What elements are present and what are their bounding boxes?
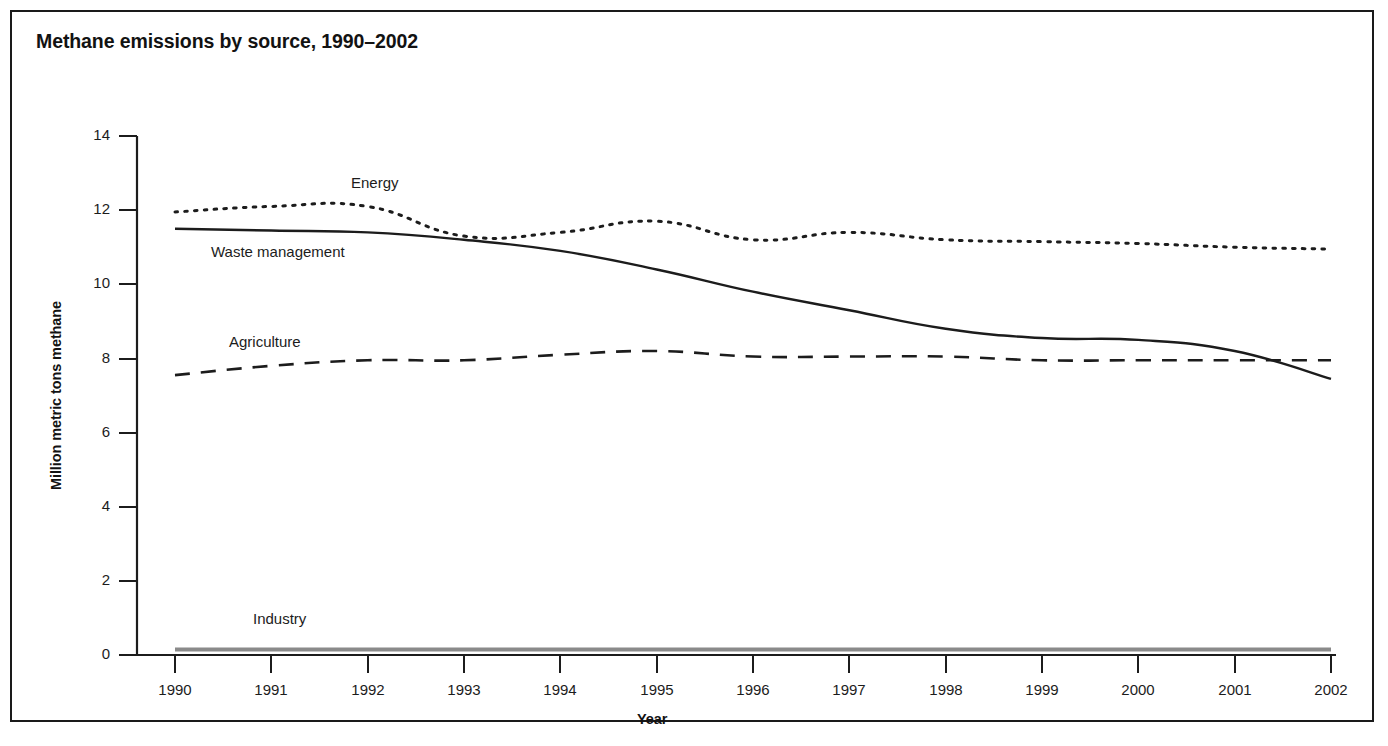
x-tick-label-1999: 1999	[1012, 681, 1072, 698]
x-axis-title: Year	[637, 711, 667, 727]
x-axis-ticks	[175, 655, 1331, 673]
series-label-agriculture: Agriculture	[229, 333, 301, 350]
series-label-energy: Energy	[351, 174, 399, 191]
y-axis-ticks	[119, 136, 137, 655]
bottom-margin-band	[0, 730, 1388, 746]
y-tick-label-4: 4	[74, 497, 110, 514]
y-tick-label-6: 6	[74, 423, 110, 440]
x-tick-label-1995: 1995	[627, 681, 687, 698]
x-tick-label-2000: 2000	[1108, 681, 1168, 698]
series-label-industry: Industry	[253, 610, 306, 627]
data-series-group	[175, 203, 1331, 649]
figure-container: Methane emissions by source, 1990–2002	[0, 0, 1388, 746]
x-tick-label-1994: 1994	[530, 681, 590, 698]
y-tick-label-10: 10	[74, 274, 110, 291]
x-tick-label-1992: 1992	[338, 681, 398, 698]
y-tick-label-14: 14	[74, 126, 110, 143]
y-tick-label-8: 8	[74, 349, 110, 366]
y-tick-label-0: 0	[74, 645, 110, 662]
series-line-energy	[175, 203, 1331, 249]
y-tick-label-2: 2	[74, 571, 110, 588]
x-tick-label-2001: 2001	[1205, 681, 1265, 698]
x-tick-label-2002: 2002	[1301, 681, 1361, 698]
x-tick-label-1990: 1990	[145, 681, 205, 698]
y-axis-title: Million metric tons methane	[48, 301, 64, 490]
x-tick-label-1993: 1993	[434, 681, 494, 698]
x-tick-label-1996: 1996	[723, 681, 783, 698]
y-tick-label-12: 12	[74, 200, 110, 217]
axis-lines	[137, 136, 1336, 655]
x-tick-label-1998: 1998	[916, 681, 976, 698]
line-chart-plot	[0, 0, 1388, 746]
x-tick-label-1997: 1997	[819, 681, 879, 698]
x-tick-label-1991: 1991	[241, 681, 301, 698]
series-label-waste-management: Waste management	[211, 243, 345, 260]
series-line-agriculture	[175, 351, 1331, 375]
